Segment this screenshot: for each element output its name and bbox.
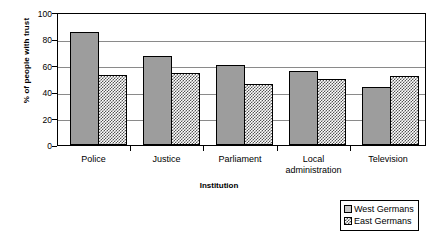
x-axis-label-parliament-line1: Parliament (203, 154, 277, 165)
x-axis-label-local-administration-line2: administration (277, 165, 350, 176)
x-axis-label-parliament: Parliament (203, 154, 277, 165)
x-axis-label-television: Television (350, 154, 426, 165)
bar-justice-west (143, 56, 172, 145)
bar-justice-east (171, 73, 200, 145)
bar-police-west (70, 32, 99, 145)
y-tick-label-60: 60 (18, 62, 52, 72)
bar-chart: % of people with trust 100 80 60 40 20 0 (0, 0, 438, 238)
bar-parliament-east (244, 84, 273, 145)
x-axis-label-local-administration: Local administration (277, 154, 350, 176)
x-tick-mark-1 (130, 146, 131, 151)
y-tick-label-20: 20 (18, 115, 52, 125)
bar-group-local-administration (289, 14, 347, 145)
x-tick-mark-4 (350, 146, 351, 151)
y-tick-mark-0 (52, 146, 57, 147)
legend-label-west-germans: West Germans (354, 204, 414, 214)
bar-television-east (390, 76, 419, 145)
bar-series-container (58, 14, 425, 145)
legend-swatch-west-germans-icon (344, 205, 352, 213)
x-axis-label-justice-line1: Justice (130, 154, 203, 165)
x-axis-label-television-line1: Television (350, 154, 426, 165)
y-tick-label-100: 100 (18, 9, 52, 19)
x-axis-label-local-administration-line1: Local (277, 154, 350, 165)
x-tick-mark-3 (277, 146, 278, 151)
bar-local-administration-west (289, 71, 318, 146)
legend-item-west-germans: West Germans (344, 203, 414, 215)
bar-police-east (98, 75, 127, 146)
bar-group-justice (143, 14, 201, 145)
plot-area (57, 13, 426, 146)
chart-legend: West Germans East Germans (340, 200, 419, 231)
bar-group-police (70, 14, 128, 145)
y-tick-label-40: 40 (18, 88, 52, 98)
x-axis-label-police: Police (57, 154, 130, 165)
bar-local-administration-east (317, 79, 346, 146)
bar-group-parliament (216, 14, 274, 145)
bar-parliament-west (216, 65, 245, 145)
y-tick-label-0: 0 (18, 141, 52, 151)
bar-television-west (362, 87, 391, 146)
x-axis-label-justice: Justice (130, 154, 203, 165)
legend-item-east-germans: East Germans (344, 215, 414, 227)
x-tick-mark-2 (203, 146, 204, 151)
bar-group-television (362, 14, 420, 145)
legend-label-east-germans: East Germans (354, 216, 412, 226)
x-axis-label-police-line1: Police (57, 154, 130, 165)
y-tick-label-80: 80 (18, 35, 52, 45)
x-axis-title: Institution (0, 181, 438, 190)
legend-swatch-east-germans-icon (344, 217, 352, 225)
